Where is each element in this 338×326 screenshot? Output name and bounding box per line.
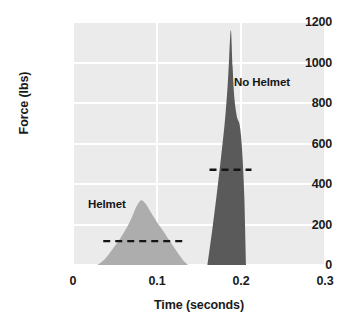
y-axis-title: Force (lbs)	[17, 33, 31, 173]
x-axis-tick-label: 0.3	[300, 275, 338, 288]
x-axis-tick-label: 0.2	[216, 275, 266, 288]
series-label-no-helmet: No Helmet	[234, 76, 290, 88]
y-axis-tick-label: 400	[266, 178, 332, 191]
y-axis-tick-label: 200	[266, 218, 332, 231]
y-axis-tick-label: 1000	[266, 56, 332, 69]
x-axis-title: Time (seconds)	[73, 298, 325, 312]
y-axis-tick-label: 1200	[266, 16, 332, 29]
x-axis-tick-label: 0	[48, 275, 98, 288]
series-label-helmet: Helmet	[88, 198, 126, 210]
y-axis-tick-label: 600	[266, 137, 332, 150]
y-axis-tick-label: 0	[266, 259, 332, 272]
x-axis-tick-label: 0.1	[132, 275, 182, 288]
area-series-no-helmet	[207, 30, 246, 265]
y-axis-tick-label: 800	[266, 97, 332, 110]
